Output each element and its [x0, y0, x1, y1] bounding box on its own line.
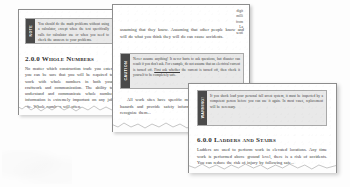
page-3-body-text: Ladders are used to perform work in elev… [197, 147, 327, 167]
warning-callout-tab: WARNING! [198, 91, 207, 125]
note-callout-box: NOTE You should do the math problems wit… [25, 18, 113, 44]
note-callout-tab-label: NOTE [29, 25, 33, 37]
scanned-pages-stage: NOTE You should do the math problems wit… [0, 0, 350, 187]
page-1-section-heading: 2.0.0 Whole Numbers [25, 55, 94, 63]
page-3-content: WARNING! If you shock load your personal… [189, 84, 336, 173]
page-3-section-heading: 6.0.0 Ladders and Stairs [197, 136, 276, 144]
page-2-body-text-top: assuming that they know. Assuming that o… [120, 27, 244, 40]
warning-callout-tab-label: WARNING! [201, 97, 205, 118]
page-1-body-text: No matter which construction trade you e… [25, 66, 113, 110]
caution-callout-tab: CAUTION [121, 54, 130, 88]
scanned-page-1: NOTE You should do the math problems wit… [18, 9, 116, 115]
note-callout-tab: NOTE [26, 19, 35, 43]
caution-callout-tab-label: CAUTION [124, 61, 128, 81]
caution-text-underlined: First ask whether [154, 68, 180, 72]
page-1-content: NOTE You should do the math problems wit… [19, 10, 115, 115]
note-callout-text: You should do the math problems without … [35, 19, 112, 43]
warning-callout-box: WARNING! If you shock load your personal… [197, 90, 327, 126]
background-smudge [2, 150, 72, 184]
scanned-page-3: WARNING! If you shock load your personal… [188, 83, 337, 173]
warning-callout-text: If you shock load your personal fall arr… [207, 91, 326, 125]
